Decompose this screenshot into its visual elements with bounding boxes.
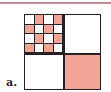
- filled-cell: [54, 15, 64, 25]
- bottom-right-quadrant: [64, 54, 100, 89]
- empty-cell: [44, 15, 54, 25]
- unit-square: [24, 14, 101, 90]
- filled-cell: [44, 44, 54, 54]
- filled-cell: [54, 34, 64, 44]
- empty-cell: [25, 34, 35, 44]
- figure-label: a.: [6, 76, 17, 89]
- checkerboard-grid: [25, 15, 63, 53]
- empty-cell: [44, 34, 54, 44]
- top-rule: [0, 2, 111, 4]
- empty-cell: [35, 44, 45, 54]
- vertical-divider: [63, 15, 65, 89]
- filled-cell: [44, 25, 54, 35]
- empty-cell: [35, 25, 45, 35]
- filled-cell: [25, 44, 35, 54]
- filled-cell: [25, 25, 35, 35]
- empty-cell: [54, 25, 64, 35]
- filled-cell: [35, 15, 45, 25]
- horizontal-divider: [25, 53, 100, 55]
- empty-cell: [25, 15, 35, 25]
- empty-cell: [54, 44, 64, 54]
- filled-cell: [35, 34, 45, 44]
